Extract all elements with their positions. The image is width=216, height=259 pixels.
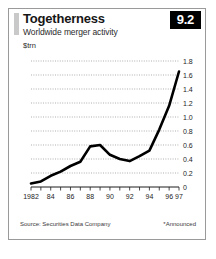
gridlines-group: [31, 61, 179, 173]
x-axis-ticks-group: [31, 187, 179, 191]
line-chart-svg: 00.20.40.60.81.01.21.41.61.8 19828486889…: [9, 53, 207, 213]
y-axis-tick-label: 1.0: [183, 114, 193, 121]
chart-header: Togetherness Worldwide merger activity $…: [9, 9, 205, 55]
chart-footer: Source: Securities Data Company *Announc…: [9, 221, 205, 235]
y-axis-tick-label: 0.4: [183, 156, 193, 163]
x-axis-tick-label: 86: [67, 193, 75, 200]
footnote-announced: *Announced: [163, 221, 196, 227]
x-axis-tick-label: 92: [126, 193, 134, 200]
y-axis-tick-label: 1.8: [183, 58, 193, 65]
y-axis-tick-label: 1.4: [183, 86, 193, 93]
y-axis-tick-label: 1.2: [183, 100, 193, 107]
source-note: Source: Securities Data Company: [20, 221, 110, 227]
data-series-line: [31, 72, 179, 184]
x-axis-tick-label: 1982: [23, 193, 39, 200]
x-axis-labels-group: 19828486889092949697: [23, 193, 183, 200]
x-axis-tick-label: 88: [86, 193, 94, 200]
x-axis-tick-label: 84: [47, 193, 55, 200]
figure-number-badge: 9.2: [170, 11, 201, 29]
y-axis-tick-label: 1.6: [183, 72, 193, 79]
x-axis-tick-label: 90: [106, 193, 114, 200]
x-axis-tick-label: 97: [175, 193, 183, 200]
chart-subtitle: Worldwide merger activity: [23, 27, 118, 37]
y-axis-labels-group: 00.20.40.60.81.01.21.41.61.8: [183, 58, 193, 191]
title-accent-bar: [14, 13, 19, 35]
page-title: Togetherness: [23, 12, 105, 26]
y-axis-unit-label: $trn: [23, 41, 36, 50]
chart-card: Togetherness Worldwide merger activity $…: [8, 8, 206, 240]
y-axis-tick-label: 0.8: [183, 128, 193, 135]
y-axis-tick-label: 0.2: [183, 170, 193, 177]
y-axis-tick-label: 0: [183, 184, 187, 191]
x-axis-tick-label: 96: [165, 193, 173, 200]
x-axis-tick-label: 94: [146, 193, 154, 200]
y-axis-tick-label: 0.6: [183, 142, 193, 149]
plot-area: 00.20.40.60.81.01.21.41.61.8 19828486889…: [9, 53, 205, 213]
